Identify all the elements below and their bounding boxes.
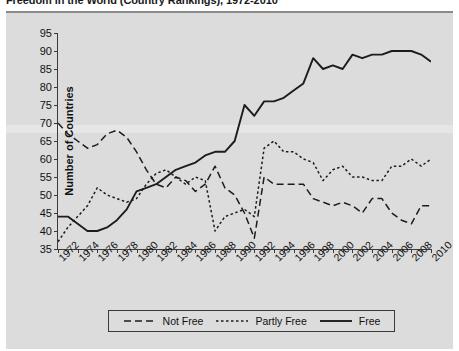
legend-label: Not Free: [163, 315, 204, 327]
y-tick-label: 65: [40, 135, 52, 147]
legend-swatch-solid: [319, 316, 353, 326]
y-tick-label: 45: [40, 207, 52, 219]
chart-figure: Freedom in the World (Country Rankings),…: [0, 0, 459, 351]
chart-legend: Not FreePartly FreeFree: [108, 310, 395, 332]
y-tick-label: 50: [40, 189, 52, 201]
y-tick-label: 95: [40, 27, 52, 39]
y-tick-label: 85: [40, 63, 52, 75]
data-lines: [58, 33, 431, 249]
legend-label: Partly Free: [255, 315, 306, 327]
legend-swatch-dotted: [215, 316, 249, 326]
y-tick-label: 70: [40, 117, 52, 129]
series-line-not-free: [58, 123, 431, 238]
series-line-free: [58, 51, 431, 231]
series-line-partly-free: [58, 141, 431, 242]
y-tick-label: 40: [40, 225, 52, 237]
legend-item-free[interactable]: Free: [319, 315, 381, 327]
y-tick-label: 80: [40, 81, 52, 93]
legend-item-partly-free[interactable]: Partly Free: [215, 315, 306, 327]
y-tick-label: 55: [40, 171, 52, 183]
y-tick-label: 35: [40, 243, 52, 255]
legend-label: Free: [359, 315, 381, 327]
y-tick-label: 60: [40, 153, 52, 165]
plot-area: Number of Countries 35404550556065707580…: [57, 33, 431, 250]
y-tick-label: 75: [40, 99, 52, 111]
legend-swatch-dashed: [123, 316, 157, 326]
chart-title: Freedom in the World (Country Rankings),…: [6, 0, 446, 8]
legend-item-not-free[interactable]: Not Free: [123, 315, 204, 327]
y-tick-label: 90: [40, 45, 52, 57]
